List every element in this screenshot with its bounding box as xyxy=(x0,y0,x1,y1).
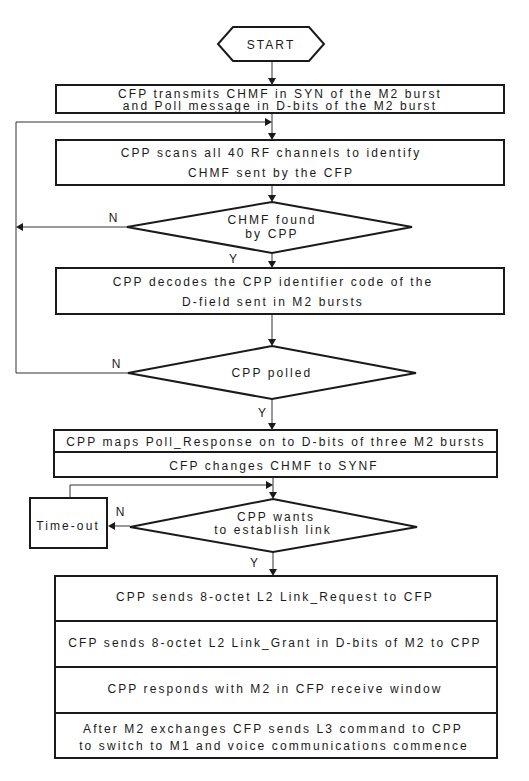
step-timeout: Time-out xyxy=(30,498,107,548)
link-grant-text: CFP sends 8-octet L2 Link_Grant in D-bit… xyxy=(68,636,481,650)
l3-command-line-1: After M2 exchanges CFP sends L3 command … xyxy=(83,722,463,736)
arrow-right-icon xyxy=(265,118,272,126)
decision-cpp-polled-yes-label: Y xyxy=(258,406,266,420)
step-scan: CPP scans all 40 RF channels to identify… xyxy=(56,140,504,185)
decision-cpp-polled: CPP polled N Y xyxy=(112,346,416,420)
decision-wants-link-no-label: N xyxy=(116,505,125,519)
step-timeout-label: Time-out xyxy=(36,519,100,533)
arrow-down-icon xyxy=(268,133,276,140)
step-link-sequence: CPP sends 8-octet L2 Link_Request to CFP… xyxy=(55,576,497,758)
arrow-left-icon xyxy=(16,223,23,231)
arrow-down-icon xyxy=(268,261,276,268)
decision-chmf-found: CHMF found by CPP N Y xyxy=(109,202,412,266)
decision-wants-link-line-2: to establish link xyxy=(214,523,332,537)
arrow-left-icon xyxy=(108,522,115,530)
step-decode: CPP decodes the CPP identifier code of t… xyxy=(56,268,504,314)
decision-chmf-found-line-1: CHMF found xyxy=(227,213,316,227)
arrow-down-icon xyxy=(268,423,276,430)
start-terminator: START xyxy=(218,27,324,61)
start-label: START xyxy=(247,38,296,52)
step-decode-line-1: CPP decodes the CPP identifier code of t… xyxy=(113,275,434,289)
step-scan-line-2: CHMF sent by the CFP xyxy=(188,166,354,180)
decision-wants-link: CPP wants to establish link N Y xyxy=(116,499,417,570)
decision-wants-link-line-1: CPP wants xyxy=(237,510,315,524)
decision-chmf-found-line-2: by CPP xyxy=(245,227,298,241)
loop-timeout xyxy=(70,485,267,498)
decision-cpp-polled-no-label: N xyxy=(112,357,121,371)
step-transmit-line-2: and Poll message in D-bits of the M2 bur… xyxy=(123,99,437,113)
flowchart-canvas: START CFP transmits CHMF in SYN of the M… xyxy=(0,0,529,781)
arrow-down-icon xyxy=(268,78,276,85)
arrow-right-icon xyxy=(266,481,273,489)
decision-chmf-found-no-label: N xyxy=(109,211,118,225)
l3-command-line-2: to switch to M1 and voice communications… xyxy=(79,739,469,753)
arrow-down-icon xyxy=(268,339,276,346)
link-request-text: CPP sends 8-octet L2 Link_Request to CFP xyxy=(116,590,434,604)
arrow-down-icon xyxy=(268,195,276,202)
step-scan-line-1: CPP scans all 40 RF channels to identify xyxy=(121,146,422,160)
step-decode-line-2: D-field sent in M2 bursts xyxy=(182,295,364,309)
step-poll-response-row-1: CPP maps Poll_Response on to D-bits of t… xyxy=(66,435,485,449)
decision-wants-link-yes-label: Y xyxy=(250,556,258,570)
step-transmit: CFP transmits CHMF in SYN of the M2 burs… xyxy=(56,85,504,113)
step-poll-response-row-2: CFP changes CHMF to SYNF xyxy=(169,459,379,473)
step-poll-response: CPP maps Poll_Response on to D-bits of t… xyxy=(54,430,497,477)
decision-cpp-polled-line-1: CPP polled xyxy=(232,366,313,380)
arrow-down-icon xyxy=(269,492,277,499)
cpp-responds-text: CPP responds with M2 in CFP receive wind… xyxy=(107,682,442,696)
decision-chmf-found-yes-label: Y xyxy=(229,252,237,266)
arrow-down-icon xyxy=(269,569,277,576)
